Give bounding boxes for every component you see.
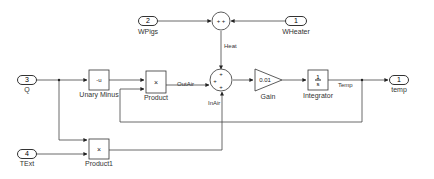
sum-main-sign-left: +: [213, 78, 217, 84]
inport-wpigs-label: WPigs: [138, 28, 158, 35]
sum-main-sign-bottom: +: [219, 84, 223, 90]
outport-temp[interactable]: 1: [389, 75, 409, 85]
inport-q-label: Q: [24, 86, 29, 93]
outport-temp-label: temp: [391, 86, 407, 93]
inport-wpigs[interactable]: 2: [138, 16, 158, 26]
wiring: [0, 0, 434, 179]
signal-temp-label: Temp: [338, 82, 353, 88]
integrator-tf[interactable]: 1 s: [315, 74, 321, 87]
unary-minus-label: Unary Minus: [79, 91, 118, 98]
product-glyph[interactable]: ×: [154, 79, 158, 86]
diagram-canvas: 2 WPigs 1 WHeater 3 Q 4 TExt 1 temp + + …: [0, 0, 434, 179]
signal-heat-label: Heat: [224, 43, 237, 49]
signal-inair-label: InAir: [208, 100, 220, 106]
inport-wheater[interactable]: 1: [285, 16, 307, 26]
gain-label: Gain: [261, 93, 276, 100]
integrator-denominator: s: [315, 81, 321, 87]
sum-main-sign-top: +: [219, 71, 223, 77]
gain-value[interactable]: 0.01: [259, 77, 271, 83]
unary-minus-glyph[interactable]: -u: [96, 77, 101, 83]
inport-wheater-label: WHeater: [282, 28, 310, 35]
product1-glyph[interactable]: ×: [97, 146, 101, 153]
sum-top-signs[interactable]: + +: [217, 18, 226, 24]
inport-text[interactable]: 4: [17, 149, 37, 159]
integrator-label: Integrator: [303, 92, 333, 99]
product1-label: Product1: [85, 160, 113, 167]
inport-text-label: TExt: [20, 160, 34, 167]
signal-outair-label: OutAir: [177, 81, 194, 87]
inport-q[interactable]: 3: [17, 75, 37, 85]
product-label: Product: [144, 94, 168, 101]
